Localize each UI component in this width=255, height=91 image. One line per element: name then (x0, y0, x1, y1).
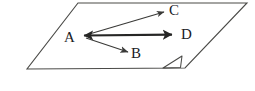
point-label-d: D (181, 27, 192, 42)
point-label-a: A (64, 30, 75, 45)
vector-a-to-c (86, 12, 164, 35)
vector-a-to-b (86, 38, 128, 52)
folded-corner-mark (163, 56, 182, 68)
point-label-b: B (131, 46, 141, 61)
vector-a-to-d (84, 35, 172, 36)
figure-canvas (0, 0, 255, 91)
point-label-c: C (169, 3, 179, 18)
geometry-figure: A B C D (0, 0, 255, 91)
